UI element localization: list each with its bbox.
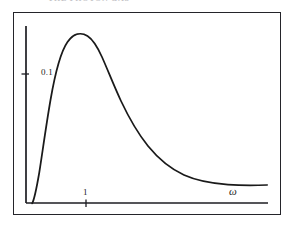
distribution-curve: [32, 34, 267, 204]
figure-page: THE PHOTON GAS 0.1 1 ω: [0, 0, 297, 232]
y-axis-tick-label: 0.1: [41, 67, 53, 77]
plot-canvas: [0, 0, 297, 232]
x-axis-title-omega: ω: [229, 185, 237, 197]
x-axis-tick-label: 1: [83, 187, 88, 197]
